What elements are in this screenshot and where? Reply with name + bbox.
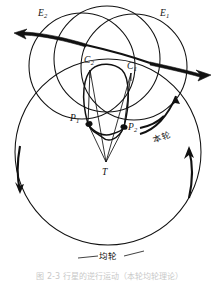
- label-center-1-base: C: [127, 61, 133, 71]
- epicycle-deferent-diagram: [0, 0, 219, 281]
- label-epicycle-2-base: E: [38, 8, 44, 18]
- deferent-left-arrow: [18, 146, 20, 191]
- deferent-right-arrowhead: [184, 146, 194, 159]
- deferent-right-arrow: [189, 150, 192, 198]
- figure-caption: 图 2-3 行星的逆行运动（本轮均轮理论）: [0, 271, 219, 281]
- planet-1-dot: [85, 120, 94, 127]
- deferent-label-rule: [78, 256, 98, 258]
- label-epicycle-1: E1: [160, 9, 169, 19]
- line-T-to-P1: [88, 124, 106, 162]
- label-epicycle-2-sub: 2: [44, 12, 47, 19]
- label-planet-2-sub: 2: [134, 126, 137, 133]
- deferent-circle: [15, 59, 201, 245]
- label-epicycle-1-base: E: [160, 8, 166, 18]
- label-planet-1: P1: [70, 114, 79, 124]
- label-planet-1-base: P: [70, 113, 76, 123]
- label-planet-2-base: P: [128, 122, 134, 132]
- label-planet-2: P2: [128, 123, 137, 133]
- label-epicycle-2: E2: [38, 9, 47, 19]
- label-epicycle-1-sub: 1: [166, 12, 169, 19]
- line-T-to-C2: [90, 70, 106, 162]
- deferent-label-rule-right: [124, 251, 144, 256]
- label-center-1-sub: 1: [134, 65, 137, 72]
- label-center-2-sub: 2: [91, 59, 94, 66]
- epicycle-2-circle: [29, 13, 135, 119]
- label-center-2-base: C: [84, 55, 90, 65]
- figure-root: E2 E1 C2 C1 P1 P2 T 本轮 均轮 图 2-3 行星的逆行运动（…: [0, 0, 219, 281]
- label-center-2: C2: [84, 56, 94, 66]
- epicycle-inner-arrow: [140, 96, 176, 134]
- label-planet-1-sub: 1: [76, 117, 79, 124]
- epicycle-right-arrow: [150, 62, 211, 81]
- epicycle-inner-arrowhead: [171, 96, 180, 106]
- epicycle-left-arrow: [14, 29, 86, 47]
- label-earth: T: [102, 168, 107, 178]
- label-deferent-cn: 均轮: [99, 249, 118, 261]
- retrograde-loop-inner-arc: [88, 124, 124, 135]
- label-center-1: C1: [127, 62, 137, 72]
